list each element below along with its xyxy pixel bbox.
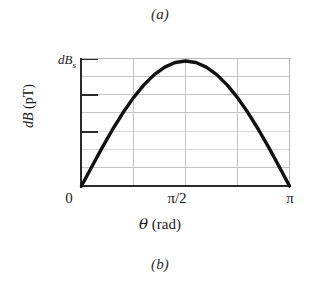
y-axis-max-label-subscript: s (72, 60, 76, 70)
x-axis-tick-label-0: 0 (58, 190, 80, 207)
x-axis-title-symbol: θ (139, 215, 148, 233)
y-axis-title: dB (pT) (21, 46, 37, 166)
data-curve (80, 59, 291, 188)
x-axis-title-unit: (rad) (148, 216, 181, 232)
y-axis-title-unit: (pT) (21, 84, 36, 112)
x-axis-tick-label-pi: π (278, 190, 302, 207)
data-curve-line (82, 61, 290, 186)
panel-caption-a: (a) (0, 6, 320, 23)
panel-caption-b: (b) (0, 256, 320, 273)
plot-area (80, 59, 290, 187)
figure-panel: (a) dBs dB (pT) 0 π/2 π θ (rad) (0, 0, 320, 288)
y-axis-max-label: dBs (58, 52, 76, 70)
y-axis-max-label-text: dB (58, 52, 72, 67)
y-axis-title-symbol: dB (21, 112, 36, 128)
x-axis-tick-label-pi-over-2: π/2 (154, 190, 200, 207)
x-axis-title: θ (rad) (0, 215, 320, 233)
